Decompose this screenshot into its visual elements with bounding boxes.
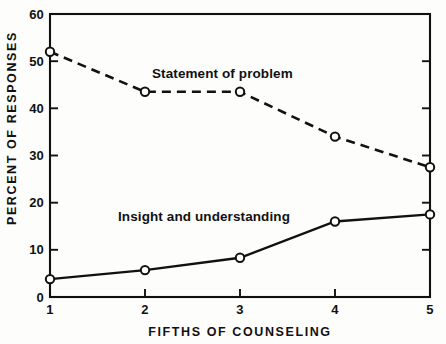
y-tick-label-60: 60 bbox=[29, 7, 44, 22]
series-label-insight-and-understanding: Insight and understanding bbox=[118, 209, 290, 224]
data-point-marker bbox=[46, 275, 54, 283]
y-tick-label-0: 0 bbox=[37, 290, 44, 305]
x-tick-label-5: 5 bbox=[426, 302, 433, 317]
y-tick-label-30: 30 bbox=[29, 148, 44, 163]
y-axis-ticks-right bbox=[422, 61, 430, 250]
series-insight-and-understanding-line bbox=[50, 214, 430, 279]
y-tick-label-20: 20 bbox=[29, 195, 44, 210]
y-axis-title: PERCENT OF RESPONSES bbox=[5, 31, 19, 225]
x-axis-title: FIFTHS OF COUNSELING bbox=[148, 325, 331, 339]
x-axis-ticks bbox=[50, 289, 430, 297]
x-tick-label-1: 1 bbox=[46, 302, 53, 317]
data-point-marker bbox=[236, 88, 244, 96]
y-tick-label-10: 10 bbox=[29, 242, 44, 257]
y-tick-label-40: 40 bbox=[29, 101, 44, 116]
chart-figure: 60 50 40 30 20 10 0 1 2 3 4 5 PERCENT OF… bbox=[0, 0, 446, 344]
data-point-marker bbox=[236, 254, 244, 262]
x-tick-label-4: 4 bbox=[331, 302, 339, 317]
data-point-marker bbox=[331, 132, 339, 140]
x-tick-label-3: 3 bbox=[236, 302, 243, 317]
data-point-marker bbox=[46, 48, 54, 56]
line-chart: 60 50 40 30 20 10 0 1 2 3 4 5 PERCENT OF… bbox=[0, 0, 446, 344]
data-point-marker bbox=[141, 266, 149, 274]
data-point-marker bbox=[141, 88, 149, 96]
series-label-statement-of-problem: Statement of problem bbox=[152, 66, 293, 81]
data-point-marker bbox=[426, 163, 434, 171]
data-point-marker bbox=[426, 210, 434, 218]
y-tick-label-50: 50 bbox=[29, 54, 44, 69]
x-tick-label-2: 2 bbox=[141, 302, 148, 317]
data-point-marker bbox=[331, 217, 339, 225]
